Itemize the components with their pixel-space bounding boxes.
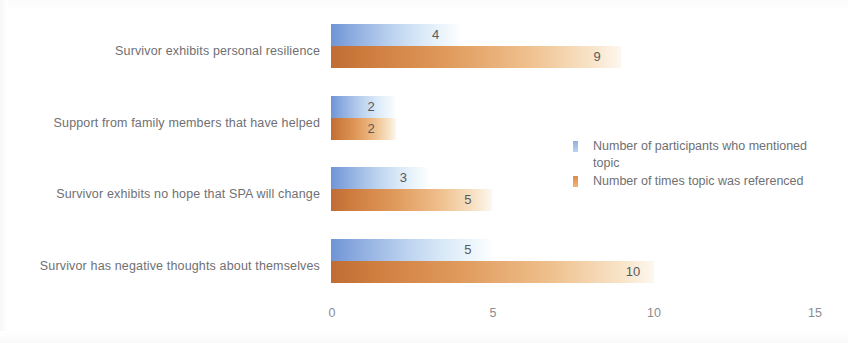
bar-participants-1[interactable]	[331, 96, 396, 118]
bar-references-0[interactable]	[331, 46, 621, 68]
category-label-2: Survivor exhibits no hope that SPA will …	[0, 187, 320, 201]
x-axis-tick-5: 5	[490, 306, 497, 320]
bar-value-participants-0: 4	[432, 24, 439, 46]
legend-swatch-blue-icon	[573, 141, 578, 152]
x-axis-tick-10: 10	[647, 306, 661, 320]
legend-label-participants: Number of participants who mentioned top…	[593, 138, 813, 172]
bar-participants-0[interactable]	[331, 24, 460, 46]
bar-references-3[interactable]	[331, 261, 654, 283]
bar-value-references-1: 2	[368, 118, 375, 140]
category-label-3: Survivor has negative thoughts about the…	[0, 259, 320, 273]
x-axis-tick-15: 15	[808, 306, 822, 320]
bar-references-1[interactable]	[331, 118, 396, 140]
chart-legend: Number of participants who mentioned top…	[573, 138, 813, 191]
x-axis-tick-0: 0	[329, 306, 336, 320]
bar-value-participants-2: 3	[400, 167, 407, 189]
bar-value-references-2: 5	[464, 189, 471, 211]
legend-item-references[interactable]: Number of times topic was referenced	[573, 173, 813, 190]
category-label-1: Support from family members that have he…	[0, 116, 320, 130]
horizontal-bar-chart: Survivor exhibits personal resilience Su…	[0, 0, 848, 343]
category-label-0: Survivor exhibits personal resilience	[0, 44, 320, 58]
bar-participants-2[interactable]	[331, 167, 428, 189]
bar-value-references-3: 10	[626, 261, 640, 283]
legend-swatch-orange-icon	[573, 176, 578, 187]
legend-label-references: Number of times topic was referenced	[593, 173, 813, 190]
legend-item-participants[interactable]: Number of participants who mentioned top…	[573, 138, 813, 172]
bar-value-participants-3: 5	[464, 239, 471, 261]
bar-value-references-0: 9	[593, 46, 600, 68]
bar-value-participants-1: 2	[368, 96, 375, 118]
